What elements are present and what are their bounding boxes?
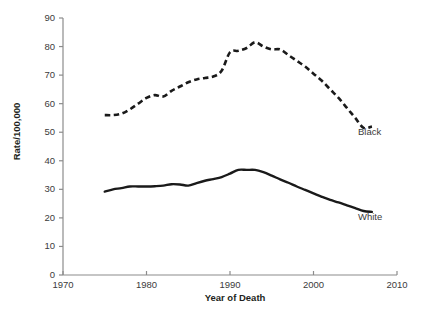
y-axis-tick-label: 90 xyxy=(29,13,55,23)
x-axis-tick-label: 2000 xyxy=(294,280,334,290)
axis-lines xyxy=(63,18,397,275)
y-axis-title: Rate/100,000 xyxy=(11,92,22,172)
series-line-white xyxy=(105,170,372,212)
y-axis-tick-label: 40 xyxy=(29,156,55,166)
y-axis-tick-label: 50 xyxy=(29,127,55,137)
series-label-black: Black xyxy=(358,126,381,137)
x-axis-tick-label: 1970 xyxy=(43,280,83,290)
y-axis-tick-label: 60 xyxy=(29,99,55,109)
x-axis-tick-label: 1990 xyxy=(210,280,250,290)
series-label-white: White xyxy=(358,211,382,222)
y-axis-tick-label: 0 xyxy=(29,270,55,280)
x-axis-title: Year of Death xyxy=(155,292,315,303)
chart-figure: 0102030405060708090 19701980199020002010… xyxy=(0,0,440,314)
x-axis-tick-label: 1980 xyxy=(127,280,167,290)
x-axis-tick-label: 2010 xyxy=(377,280,417,290)
y-axis-tick-label: 20 xyxy=(29,213,55,223)
y-axis-tick-label: 30 xyxy=(29,184,55,194)
y-axis-tick-label: 10 xyxy=(29,241,55,251)
series-line-black xyxy=(105,42,372,128)
y-axis-tick-label: 80 xyxy=(29,42,55,52)
y-axis-tick-label: 70 xyxy=(29,70,55,80)
plot-area xyxy=(0,0,440,314)
